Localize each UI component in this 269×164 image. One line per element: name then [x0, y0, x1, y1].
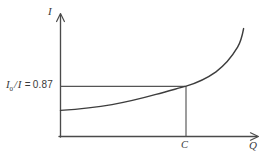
figure-container: I Q C I0/I=0.87: [0, 0, 269, 164]
x-axis-tick-label-c: C: [181, 140, 188, 151]
x-axis-label: Q: [249, 140, 257, 151]
ratio-annotation: I0/I=0.87: [6, 79, 53, 90]
ratio-value: 0.87: [33, 80, 53, 90]
intensity-curve: [61, 29, 244, 111]
ratio-equals-sign: =: [22, 80, 33, 90]
ratio-numerator-subscript: 0: [9, 86, 13, 93]
y-axis-label: I: [48, 6, 52, 17]
